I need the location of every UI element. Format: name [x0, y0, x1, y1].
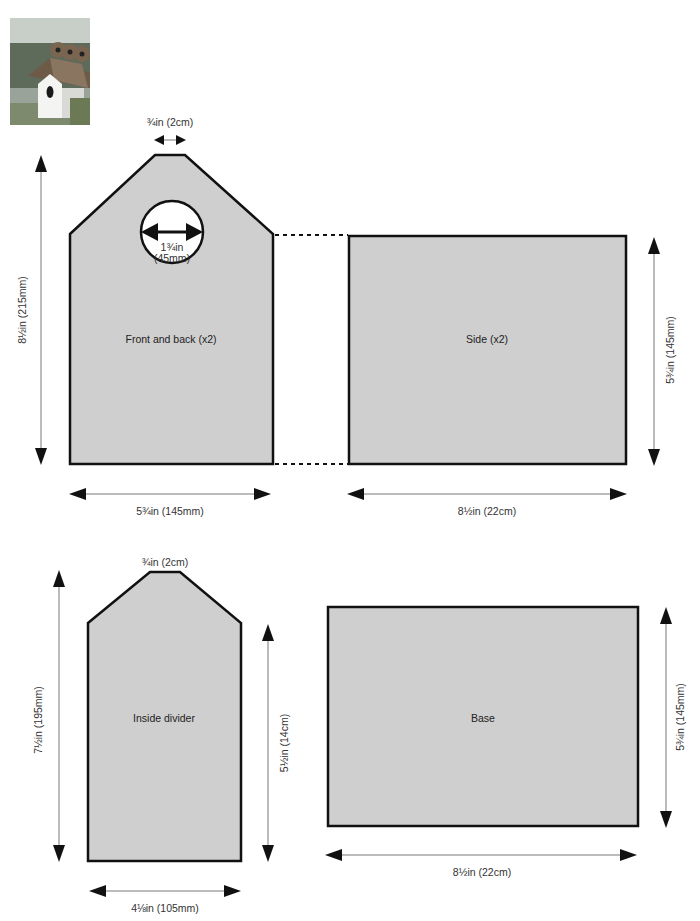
base-height-label: 5¾in (145mm)	[674, 683, 686, 751]
inside-divider-width-label: 4⅛in (105mm)	[131, 902, 199, 914]
inside-divider-label: Inside divider	[133, 712, 195, 724]
front-back-label: Front and back (x2)	[125, 333, 216, 345]
side-outline	[349, 236, 626, 464]
birdhouse-template-diagram: 1¾in (45mm) Front and back (x2) ¾in (2cm…	[0, 0, 700, 921]
front-back-top-width-dimension: ¾in (2cm)	[147, 116, 194, 145]
inside-divider-total-height-dimension: 7½in (195mm)	[32, 570, 65, 862]
front-back-width-dimension: 5¾in (145mm)	[69, 488, 271, 517]
side-width-label: 8½in (22cm)	[458, 505, 516, 517]
piece-inside-divider: Inside divider ¾in (2cm) 7½in (195mm) 5½…	[32, 556, 290, 914]
side-height-label: 5¾in (145mm)	[664, 316, 676, 384]
side-width-dimension: 8½in (22cm)	[347, 488, 627, 517]
hole-diameter-label-2: (45mm)	[154, 252, 190, 264]
inside-divider-total-height-label: 7½in (195mm)	[32, 686, 44, 754]
inside-divider-top-width-label: ¾in (2cm)	[142, 556, 189, 568]
front-back-height-dimension: 8½in (215mm)	[16, 155, 47, 465]
piece-base: Base 5¾in (145mm) 8½in (22cm)	[325, 607, 686, 878]
front-back-top-width-label: ¾in (2cm)	[147, 116, 194, 128]
piece-front-and-back: 1¾in (45mm) Front and back (x2) ¾in (2cm…	[16, 116, 273, 517]
side-label: Side (x2)	[466, 333, 508, 345]
inside-divider-width-dimension: 4⅛in (105mm)	[89, 885, 241, 914]
side-height-dimension: 5¾in (145mm)	[648, 237, 676, 466]
base-width-dimension: 8½in (22cm)	[325, 849, 637, 878]
inside-divider-side-height-dimension: 5½in (14cm)	[262, 624, 290, 862]
base-height-dimension: 5¾in (145mm)	[660, 607, 686, 828]
front-back-width-label: 5¾in (145mm)	[136, 505, 204, 517]
base-label: Base	[471, 712, 495, 724]
front-back-height-label: 8½in (215mm)	[16, 276, 28, 344]
base-width-label: 8½in (22cm)	[453, 866, 511, 878]
piece-side: Side (x2) 5¾in (145mm) 8½in (22cm)	[347, 236, 676, 517]
inside-divider-side-height-label: 5½in (14cm)	[278, 714, 290, 772]
